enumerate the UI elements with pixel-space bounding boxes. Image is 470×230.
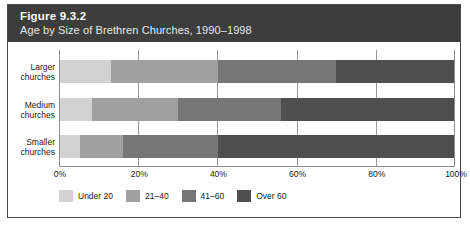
- legend-swatch: [182, 190, 196, 202]
- bar-segment: [218, 135, 454, 158]
- bar-segment: [60, 98, 92, 121]
- x-tick-label: 60%: [289, 169, 306, 179]
- x-tick-label: 40%: [210, 169, 227, 179]
- x-axis-tick-labels: 0%20%40%60%80%100%: [59, 169, 457, 181]
- legend-label: Under 20: [78, 191, 113, 201]
- x-tick-label: 20%: [131, 169, 148, 179]
- legend-swatch: [126, 190, 140, 202]
- chart-legend: Under 2021–4041–60Over 60: [59, 189, 300, 203]
- legend-item: 41–60: [182, 190, 225, 202]
- bar-segment: [111, 60, 217, 83]
- bar-segment: [281, 98, 454, 121]
- category-label-line-1: Smaller: [11, 137, 55, 147]
- bar-segment: [80, 135, 123, 158]
- bar-segment: [60, 135, 80, 158]
- legend-swatch: [237, 190, 251, 202]
- bar-segment: [60, 60, 111, 83]
- bar-segment: [218, 60, 336, 83]
- legend-label: Over 60: [256, 191, 286, 201]
- legend-swatch: [59, 190, 73, 202]
- category-label-line-1: Medium: [11, 100, 55, 110]
- figure-header: Figure 9.3.2 Age by Size of Brethren Chu…: [8, 5, 460, 42]
- category-label-medium-churches: Medium churches: [11, 100, 55, 120]
- bar-segment: [336, 60, 454, 83]
- figure-number: Figure 9.3.2: [20, 9, 460, 23]
- category-label-line-2: churches: [11, 147, 55, 157]
- legend-label: 41–60: [201, 191, 225, 201]
- category-label-line-2: churches: [11, 110, 55, 120]
- legend-item: Over 60: [237, 190, 286, 202]
- category-label-line-2: churches: [11, 72, 55, 82]
- x-tick-label: 80%: [368, 169, 385, 179]
- plot-area: [59, 50, 455, 167]
- category-label-smaller-churches: Smaller churches: [11, 137, 55, 157]
- bar-row: [60, 135, 454, 158]
- bar-segment: [123, 135, 218, 158]
- x-tick-label: 100%: [445, 169, 467, 179]
- figure-subtitle: Age by Size of Brethren Churches, 1990–1…: [20, 23, 460, 38]
- legend-item: 21–40: [126, 190, 169, 202]
- bar-row: [60, 98, 454, 121]
- legend-item: Under 20: [59, 190, 113, 202]
- bar-segment: [92, 98, 179, 121]
- figure-frame: Figure 9.3.2 Age by Size of Brethren Chu…: [7, 4, 461, 218]
- bar-segment: [178, 98, 280, 121]
- bar-row: [60, 60, 454, 83]
- x-tick-label: 0%: [54, 169, 66, 179]
- category-label-larger-churches: Larger churches: [11, 62, 55, 82]
- category-label-line-1: Larger: [11, 62, 55, 72]
- category-axis-labels: Larger churches Medium churches Smaller …: [8, 50, 55, 167]
- legend-label: 21–40: [145, 191, 169, 201]
